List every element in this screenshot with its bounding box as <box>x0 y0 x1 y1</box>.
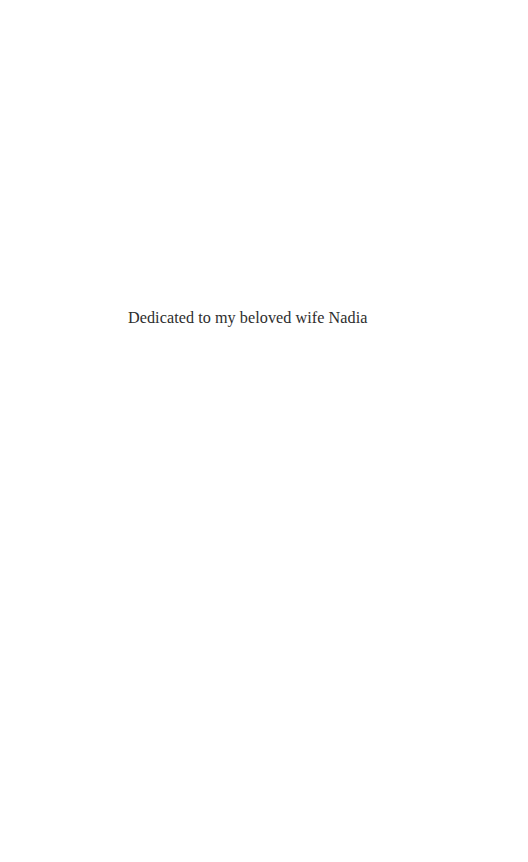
dedication-text: Dedicated to my beloved wife Nadia <box>128 306 367 330</box>
book-page: Dedicated to my beloved wife Nadia <box>0 0 528 862</box>
